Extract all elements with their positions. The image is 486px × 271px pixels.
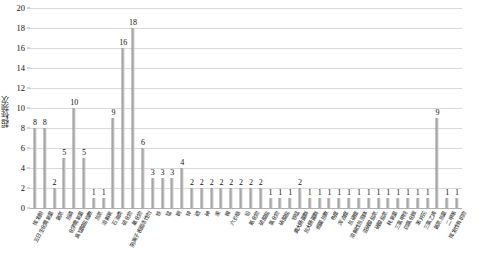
bar-slot[interactable]: 9 xyxy=(433,8,443,208)
bar[interactable] xyxy=(249,188,252,208)
bar-slot[interactable]: 2 xyxy=(295,8,305,208)
bar-slot[interactable]: 1 xyxy=(413,8,423,208)
bar[interactable] xyxy=(102,198,105,208)
bar-value-label: 2 xyxy=(259,179,263,187)
bar-slot[interactable]: 3 xyxy=(148,8,158,208)
bar-slot[interactable]: 2 xyxy=(207,8,217,208)
bar-slot[interactable]: 1 xyxy=(452,8,462,208)
bar[interactable] xyxy=(298,188,301,208)
bar-slot[interactable]: 1 xyxy=(266,8,276,208)
bar[interactable] xyxy=(367,198,370,208)
bar[interactable] xyxy=(112,118,115,208)
bar-value-label: 10 xyxy=(70,99,78,107)
bar[interactable] xyxy=(436,118,439,208)
y-axis-tick-label: 14 xyxy=(17,63,26,73)
bar[interactable] xyxy=(348,198,351,208)
bar-slot[interactable]: 1 xyxy=(325,8,335,208)
bar[interactable] xyxy=(33,128,36,208)
bar-slot[interactable]: 1 xyxy=(423,8,433,208)
bar[interactable] xyxy=(308,198,311,208)
bar-slot[interactable]: 1 xyxy=(442,8,452,208)
bar[interactable] xyxy=(456,198,459,208)
bar-slot[interactable]: 2 xyxy=(187,8,197,208)
bar-slot[interactable]: 4 xyxy=(177,8,187,208)
bar[interactable] xyxy=(269,198,272,208)
bar-slot[interactable]: 1 xyxy=(354,8,364,208)
bar[interactable] xyxy=(240,188,243,208)
bar-slot[interactable]: 1 xyxy=(403,8,413,208)
bar-slot[interactable]: 8 xyxy=(30,8,40,208)
bar[interactable] xyxy=(377,198,380,208)
bar-slot[interactable]: 2 xyxy=(50,8,60,208)
bar[interactable] xyxy=(230,188,233,208)
bar[interactable] xyxy=(387,198,390,208)
bar-slot[interactable]: 8 xyxy=(40,8,50,208)
bar[interactable] xyxy=(181,168,184,208)
bar[interactable] xyxy=(63,158,66,208)
bar-value-label: 3 xyxy=(170,169,174,177)
bar-slot[interactable]: 1 xyxy=(334,8,344,208)
bar-slot[interactable]: 1 xyxy=(383,8,393,208)
bar-slot[interactable]: 10 xyxy=(69,8,79,208)
bar[interactable] xyxy=(92,198,95,208)
bar-slot[interactable]: 1 xyxy=(275,8,285,208)
bar-value-label: 6 xyxy=(141,139,145,147)
bar-slot[interactable]: 6 xyxy=(138,8,148,208)
bar[interactable] xyxy=(190,188,193,208)
bar[interactable] xyxy=(200,188,203,208)
bar[interactable] xyxy=(446,198,449,208)
y-axis-tick-label: 12 xyxy=(17,83,26,93)
bar[interactable] xyxy=(43,128,46,208)
bar-slot[interactable]: 2 xyxy=(256,8,266,208)
bar[interactable] xyxy=(73,108,76,208)
bar[interactable] xyxy=(141,148,144,208)
bar[interactable] xyxy=(82,158,85,208)
bar[interactable] xyxy=(220,188,223,208)
bar-slot[interactable]: 2 xyxy=(226,8,236,208)
bar[interactable] xyxy=(53,188,56,208)
bar-slot[interactable]: 1 xyxy=(393,8,403,208)
bar-slot[interactable]: 1 xyxy=(364,8,374,208)
bar-slot[interactable]: 5 xyxy=(79,8,89,208)
bar-slot[interactable]: 2 xyxy=(197,8,207,208)
bar-value-label: 2 xyxy=(219,179,223,187)
bar[interactable] xyxy=(151,178,154,208)
bar[interactable] xyxy=(397,198,400,208)
bar-slot[interactable]: 1 xyxy=(374,8,384,208)
bar[interactable] xyxy=(210,188,213,208)
bar-slot[interactable]: 16 xyxy=(118,8,128,208)
y-axis-tick-label: 18 xyxy=(17,23,26,33)
bar-slot[interactable]: 2 xyxy=(246,8,256,208)
bar[interactable] xyxy=(328,198,331,208)
bar-slot[interactable]: 9 xyxy=(109,8,119,208)
bar[interactable] xyxy=(279,198,282,208)
bar-slot[interactable]: 2 xyxy=(217,8,227,208)
bar[interactable] xyxy=(318,198,321,208)
bar-slot[interactable]: 1 xyxy=(315,8,325,208)
bar[interactable] xyxy=(416,198,419,208)
bar-slot[interactable]: 1 xyxy=(89,8,99,208)
bar[interactable] xyxy=(259,188,262,208)
bar-slot[interactable]: 3 xyxy=(167,8,177,208)
bar[interactable] xyxy=(289,198,292,208)
y-axis-tick-label: 4 xyxy=(21,163,25,173)
bar[interactable] xyxy=(122,48,125,208)
bar-value-label: 2 xyxy=(200,179,204,187)
bar-slot[interactable]: 2 xyxy=(236,8,246,208)
bar[interactable] xyxy=(406,198,409,208)
bar[interactable] xyxy=(426,198,429,208)
bar-slot[interactable]: 1 xyxy=(99,8,109,208)
bar-slot[interactable]: 3 xyxy=(158,8,168,208)
bar-value-label: 2 xyxy=(190,179,194,187)
bar[interactable] xyxy=(357,198,360,208)
bar[interactable] xyxy=(161,178,164,208)
bar[interactable] xyxy=(338,198,341,208)
bar-slot[interactable]: 1 xyxy=(285,8,295,208)
bar[interactable] xyxy=(171,178,174,208)
bar-slot[interactable]: 1 xyxy=(344,8,354,208)
bar-slot[interactable]: 1 xyxy=(305,8,315,208)
bar-value-label: 1 xyxy=(416,189,420,197)
bar-slot[interactable]: 5 xyxy=(59,8,69,208)
bar[interactable] xyxy=(132,28,135,208)
bar-slot[interactable]: 18 xyxy=(128,8,138,208)
